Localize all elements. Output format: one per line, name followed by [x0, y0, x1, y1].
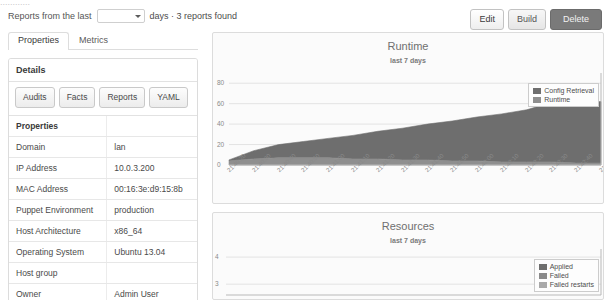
property-value: 10.0.3.200	[107, 157, 197, 178]
details-heading: Details	[9, 59, 197, 82]
reports-found-text: days · 3 reports found	[150, 11, 238, 21]
y-axis-tick-label: 20	[217, 141, 224, 148]
clipped-top-text: ............	[0, 0, 610, 5]
table-row: Host Architecturex86_64	[9, 220, 197, 241]
property-key: Host Architecture	[9, 220, 107, 241]
legend-label: Applied	[550, 263, 573, 270]
runtime-legend: Config Retrieval Runtime	[528, 83, 599, 107]
property-value: production	[107, 199, 197, 220]
y-axis-tick-label: 40	[217, 120, 224, 127]
property-value: Ubuntu 13.04	[107, 241, 197, 262]
details-action-buttons: Audits Facts Reports YAML	[9, 82, 197, 116]
delete-button[interactable]: Delete	[550, 9, 602, 30]
property-value	[107, 262, 197, 283]
property-value: Admin User	[107, 283, 197, 300]
property-key: Domain	[9, 136, 107, 157]
legend-swatch-icon	[539, 282, 547, 288]
edit-button[interactable]: Edit	[470, 9, 504, 30]
table-row: Puppet Environmentproduction	[9, 199, 197, 220]
property-key: Operating System	[9, 241, 107, 262]
legend-label: Config Retrieval	[544, 87, 594, 94]
property-key: MAC Address	[9, 178, 107, 199]
table-row: Domainlan	[9, 136, 197, 157]
properties-table: Properties DomainlanIP Address10.0.3.200…	[9, 116, 197, 300]
table-row: Operating SystemUbuntu 13.04	[9, 241, 197, 262]
y-axis-tick-label: 80	[217, 79, 224, 86]
host-detail-page: ............ Reports from the last days …	[0, 0, 610, 300]
reports-button[interactable]: Reports	[99, 87, 145, 108]
reports-days-select[interactable]	[97, 9, 145, 23]
detail-tabs: Properties Metrics	[8, 33, 198, 50]
yaml-button[interactable]: YAML	[149, 87, 188, 108]
build-button[interactable]: Build	[508, 9, 546, 30]
y-axis-tick-label: 0	[217, 161, 221, 168]
table-row: Host group	[9, 262, 197, 283]
host-actions: Edit Build Delete	[470, 9, 602, 30]
table-row: IP Address10.0.3.200	[9, 157, 197, 178]
legend-label: Runtime	[544, 96, 570, 103]
tab-metrics[interactable]: Metrics	[69, 32, 118, 49]
audits-button[interactable]: Audits	[15, 87, 55, 108]
property-value: x86_64	[107, 220, 197, 241]
property-key: Host group	[9, 262, 107, 283]
runtime-chart-panel: Runtime last 7 days 02040608021:40:2021:…	[212, 32, 604, 204]
legend-swatch-icon	[533, 88, 541, 94]
resources-chart-panel: Resources last 7 days 34 Applied Failed …	[212, 212, 604, 300]
details-panel: Details Audits Facts Reports YAML Proper…	[8, 58, 198, 300]
legend-item: Failed restarts	[539, 281, 594, 288]
resources-legend: Applied Failed Failed restarts	[534, 259, 599, 292]
legend-item: Runtime	[533, 96, 594, 103]
property-key: Puppet Environment	[9, 199, 107, 220]
property-key: Owner	[9, 283, 107, 300]
table-header-row: Properties	[9, 116, 197, 137]
property-value: lan	[107, 136, 197, 157]
y-axis-tick-label: 3	[215, 280, 219, 287]
column-header-properties: Properties	[9, 116, 107, 137]
legend-item: Config Retrieval	[533, 87, 594, 94]
runtime-plot-area: 02040608021:40:2021:40:3021:40:4021:40:5…	[213, 33, 603, 203]
table-row: OwnerAdmin User	[9, 283, 197, 300]
facts-button[interactable]: Facts	[59, 87, 96, 108]
reports-filter-label: Reports from the last	[8, 11, 92, 21]
tab-properties[interactable]: Properties	[8, 32, 69, 50]
legend-item: Failed	[539, 272, 594, 279]
chevron-down-icon	[135, 15, 141, 18]
legend-label: Failed	[550, 272, 569, 279]
property-value: 00:16:3e:d9:15:8b	[107, 178, 197, 199]
property-key: IP Address	[9, 157, 107, 178]
y-axis-tick-label: 4	[215, 253, 219, 260]
y-axis-tick-label: 60	[217, 100, 224, 107]
legend-swatch-icon	[539, 273, 547, 279]
properties-table-body: DomainlanIP Address10.0.3.200MAC Address…	[9, 136, 197, 300]
table-row: MAC Address00:16:3e:d9:15:8b	[9, 178, 197, 199]
legend-item: Applied	[539, 263, 594, 270]
runtime-chart-svg	[213, 33, 604, 204]
column-header-value	[107, 116, 197, 137]
legend-label: Failed restarts	[550, 281, 594, 288]
legend-swatch-icon	[533, 97, 541, 103]
legend-swatch-icon	[539, 264, 547, 270]
reports-filter-bar: Reports from the last days · 3 reports f…	[8, 7, 237, 24]
